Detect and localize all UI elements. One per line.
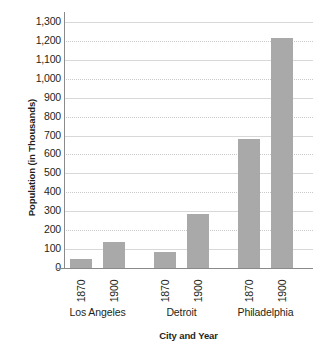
bar	[238, 139, 260, 268]
x-axis-tick-label: 1870	[159, 271, 171, 311]
y-axis-tick-label: 600	[14, 148, 61, 159]
y-axis-tick-label: 1,100	[14, 54, 61, 65]
x-axis-tick-label: 1900	[276, 271, 288, 311]
bar	[154, 252, 176, 268]
x-axis-tick-label: 1900	[108, 271, 120, 311]
y-axis-tick-label: 500	[14, 167, 61, 178]
bars-layer	[64, 22, 313, 268]
bar	[103, 242, 125, 268]
x-axis-tick-labels: 187019001870190018701900	[64, 269, 313, 309]
bar	[271, 38, 293, 268]
y-axis-tick-label: 700	[14, 130, 61, 141]
y-axis-tick-label: 1,000	[14, 73, 61, 84]
x-axis-tick-label: 1900	[192, 271, 204, 311]
y-axis-tick-labels: 1,3001,2001,1001,00090080070060050040030…	[14, 0, 61, 290]
y-axis-tick-label: 400	[14, 186, 61, 197]
x-axis-group-labels: Los AngelesDetroitPhiladelphia	[64, 306, 313, 322]
y-axis-tick-label: 300	[14, 205, 61, 216]
y-axis-tick-label: 100	[14, 243, 61, 254]
y-axis-tick-label: 800	[14, 111, 61, 122]
bar	[70, 259, 92, 268]
bar	[187, 214, 209, 268]
y-axis-tick-label: 200	[14, 224, 61, 235]
y-axis-tick-label: 900	[14, 92, 61, 103]
x-axis-tick-label: 1870	[243, 271, 255, 311]
x-axis-title: City and Year	[64, 330, 313, 341]
x-axis-group-label: Philadelphia	[211, 306, 321, 318]
bar-chart: Population (in Thousands) 1,3001,2001,10…	[0, 0, 326, 350]
x-axis-tick-label: 1870	[75, 271, 87, 311]
y-axis-tick-label: 0	[14, 262, 61, 273]
y-axis-tick-label: 1,300	[14, 16, 61, 27]
y-axis-tick-label: 1,200	[14, 35, 61, 46]
